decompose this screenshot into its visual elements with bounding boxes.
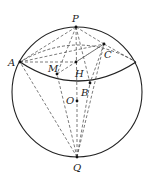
section-circle-back: [20, 45, 136, 62]
label-C: C: [104, 49, 112, 60]
point-C: [103, 43, 106, 46]
point-Q: [76, 156, 79, 159]
label-O: O: [66, 95, 74, 106]
label-Q: Q: [73, 162, 81, 173]
label-H: H: [74, 68, 84, 79]
point-O: [76, 100, 79, 103]
point-B: [89, 82, 92, 85]
label-P: P: [71, 13, 79, 24]
label-A: A: [7, 57, 15, 68]
sphere-diagram: P A C M H B O Q: [0, 0, 149, 181]
dashed-edges: [20, 27, 136, 157]
label-M: M: [47, 63, 59, 74]
point-A: [19, 61, 22, 64]
point-H: [75, 61, 78, 64]
point-P: [75, 26, 78, 29]
label-B: B: [80, 87, 88, 98]
